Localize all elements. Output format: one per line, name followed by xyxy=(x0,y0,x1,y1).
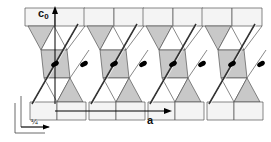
cation-site-in-channel xyxy=(197,60,207,68)
quarter-label: ¼ xyxy=(31,117,38,126)
bottom-light-polyhedron xyxy=(207,102,234,120)
top-light-polyhedron xyxy=(143,8,173,26)
cation-site-in-channel xyxy=(138,60,148,68)
top-light-polyhedron xyxy=(55,8,85,26)
cation-site-in-channel xyxy=(79,60,89,68)
top-light-polyhedron xyxy=(114,8,144,26)
crystal-structure-diagram: c0 a ¼ xyxy=(0,0,271,142)
cation-site-in-channel xyxy=(256,60,266,68)
top-light-polyhedron xyxy=(232,8,262,26)
top-light-polyhedron xyxy=(84,8,114,26)
top-light-polyhedron xyxy=(202,8,232,26)
bottom-light-polyhedron xyxy=(234,102,263,120)
top-light-polyhedron xyxy=(173,8,203,26)
quarter-arrowhead-icon xyxy=(43,125,50,130)
bottom-light-polyhedron xyxy=(175,102,204,120)
a-axis-label: a xyxy=(147,114,154,126)
